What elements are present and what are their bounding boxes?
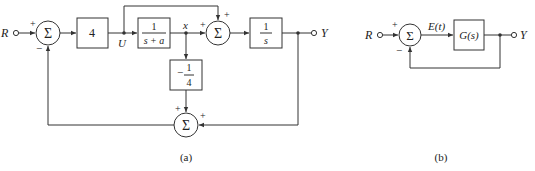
sum1-plus-sign: +: [30, 18, 36, 29]
input-terminal: [13, 30, 18, 35]
svg-text:1: 1: [264, 21, 269, 32]
sum2-plus-left: +: [200, 19, 206, 30]
summing-junction-b: Σ + −: [392, 19, 421, 56]
feedback-gain-block: − 1 4: [170, 60, 202, 90]
caption-a: (a): [180, 151, 193, 164]
error-signal-label: E(t): [427, 20, 445, 33]
svg-text:s + a: s + a: [144, 35, 165, 46]
svg-text:Σ: Σ: [44, 26, 52, 41]
svg-text:4: 4: [187, 77, 192, 88]
input-r-label: R: [0, 26, 9, 40]
svg-text:Σ: Σ: [214, 26, 222, 41]
integrator-block: 1 s: [250, 18, 282, 48]
summing-junction-2: Σ + +: [200, 9, 230, 45]
svg-text:1: 1: [187, 62, 192, 73]
sum-b-minus-sign: −: [396, 44, 402, 56]
svg-text:−: −: [177, 66, 183, 78]
plant-block: 1 s + a: [138, 18, 170, 48]
svg-text:G(s): G(s): [459, 29, 479, 42]
sum-b-plus-sign: +: [392, 19, 398, 30]
svg-text:Σ: Σ: [182, 118, 190, 133]
input-r-label-b: R: [364, 28, 373, 42]
output-terminal: [311, 30, 316, 35]
input-terminal-b: [377, 32, 382, 37]
svg-text:s: s: [264, 35, 268, 46]
output-terminal-b: [511, 32, 516, 37]
svg-text:1: 1: [152, 21, 157, 32]
sum2-plus-top: +: [224, 9, 230, 20]
diagram-b: R Σ + − E(t) G(s) Y (b): [364, 19, 528, 164]
sum1-minus-sign: −: [36, 42, 42, 54]
sum3-plus-top: +: [175, 103, 181, 114]
output-y-label-b: Y: [520, 28, 528, 42]
sum3-plus-right: +: [200, 110, 206, 121]
svg-text:Σ: Σ: [406, 28, 414, 43]
signal-u-label: U: [118, 37, 127, 49]
block-diagrams: R Σ + − 4 U 1 s + a x: [0, 0, 535, 171]
diagram-a: R Σ + − 4 U 1 s + a x: [0, 6, 329, 164]
caption-b: (b): [435, 151, 448, 164]
plant-block-b: G(s): [454, 20, 484, 50]
gain-block: 4: [77, 18, 108, 48]
summing-junction-1: Σ + −: [30, 18, 60, 54]
svg-text:4: 4: [89, 26, 95, 40]
output-y-label: Y: [321, 26, 329, 40]
signal-x-label: x: [182, 19, 188, 31]
